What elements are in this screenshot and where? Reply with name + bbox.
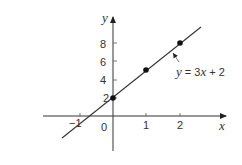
x-tick-label-2: 2 — [177, 119, 183, 131]
y-tick-label-6: 6 — [100, 56, 106, 68]
equation-mid: = 3 — [182, 66, 201, 78]
y-tick-label-8: 8 — [100, 38, 106, 50]
x-tick-label-1: 1 — [143, 119, 149, 131]
y-axis-label: y — [100, 10, 108, 25]
linear-function-chart: −1 1 2 0 2 4 6 8 y x y = 3x + 2 — [0, 0, 242, 165]
data-point-2-8 — [177, 40, 183, 46]
annotation-arrow — [173, 53, 179, 62]
x-axis-label: x — [218, 118, 225, 133]
data-point-1-5 — [143, 67, 149, 73]
y-tick-label-4: 4 — [100, 74, 106, 86]
equation-label: y = 3x + 2 — [174, 64, 225, 79]
origin-label: 0 — [101, 121, 107, 133]
data-point-0-2 — [110, 95, 116, 101]
equation-tail: + 2 — [206, 66, 225, 78]
